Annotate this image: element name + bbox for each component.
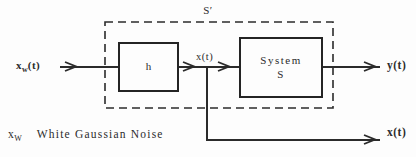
caption-symbol-subscript: W bbox=[14, 134, 22, 143]
arrowhead-output-y-icon bbox=[363, 61, 377, 72]
block-diagram: S′ xw(t) h x(t) System S y(t) x(t) xWWhi… bbox=[0, 0, 416, 157]
arrowhead-into-system-icon bbox=[217, 61, 231, 72]
arrowhead-input-icon bbox=[64, 61, 78, 72]
system-block-label-line2: S bbox=[277, 68, 285, 82]
input-signal-suffix: (t) bbox=[28, 59, 41, 71]
caption: xWWhite Gaussian Noise bbox=[8, 128, 164, 143]
output-x-label: x(t) bbox=[387, 126, 406, 138]
filter-block: h bbox=[118, 42, 179, 92]
caption-text: White Gaussian Noise bbox=[37, 128, 164, 140]
input-signal-label: xw(t) bbox=[16, 59, 40, 74]
system-block-label-line1: System bbox=[260, 54, 301, 68]
arrowhead-after-filter-icon bbox=[182, 61, 196, 72]
arrowhead-output-x-icon bbox=[363, 134, 377, 145]
output-y-label: y(t) bbox=[387, 59, 406, 71]
filter-block-label: h bbox=[146, 60, 152, 74]
intermediate-signal-label: x(t) bbox=[196, 51, 213, 62]
system-block: System S bbox=[239, 37, 323, 98]
output-x-line bbox=[206, 139, 380, 141]
branch-line-vertical bbox=[206, 66, 208, 141]
outer-system-label: S′ bbox=[196, 4, 220, 16]
